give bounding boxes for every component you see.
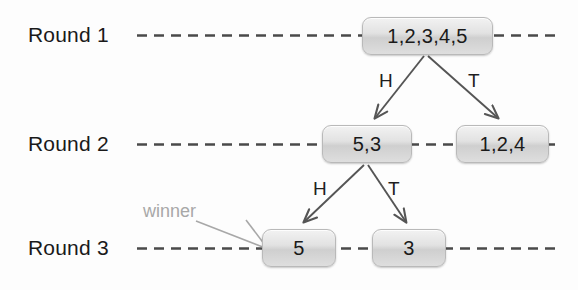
node-round2-heads-group[interactable]: 5,3 bbox=[322, 125, 412, 163]
edge-label-round1-heads: H bbox=[379, 70, 393, 92]
node-label: 3 bbox=[403, 238, 414, 259]
node-round3-winner[interactable]: 5 bbox=[262, 229, 336, 267]
round-3-label: Round 3 bbox=[28, 236, 109, 260]
edge-label-round2-tails: T bbox=[388, 178, 400, 200]
winner-annotation-label: winner bbox=[143, 201, 196, 222]
edge-n1-n3-tails bbox=[428, 56, 498, 118]
tournament-tree-diagram: Round 1 Round 2 Round 3 1,2,3,4,5 5,3 1,… bbox=[0, 0, 578, 290]
edge-label-round2-heads: H bbox=[313, 178, 327, 200]
edge-label-round1-tails: T bbox=[468, 70, 480, 92]
node-label: 5,3 bbox=[353, 134, 382, 155]
node-round2-tails-group[interactable]: 1,2,4 bbox=[456, 125, 549, 163]
round-1-label: Round 1 bbox=[28, 23, 109, 47]
node-round1-all-players[interactable]: 1,2,3,4,5 bbox=[362, 17, 493, 55]
node-label: 1,2,4 bbox=[480, 134, 526, 155]
node-label: 5 bbox=[293, 238, 304, 259]
node-label: 1,2,3,4,5 bbox=[387, 26, 468, 47]
round-2-label: Round 2 bbox=[28, 132, 109, 156]
node-round3-other[interactable]: 3 bbox=[372, 229, 446, 267]
edge-n2-n5-tails bbox=[368, 165, 406, 222]
